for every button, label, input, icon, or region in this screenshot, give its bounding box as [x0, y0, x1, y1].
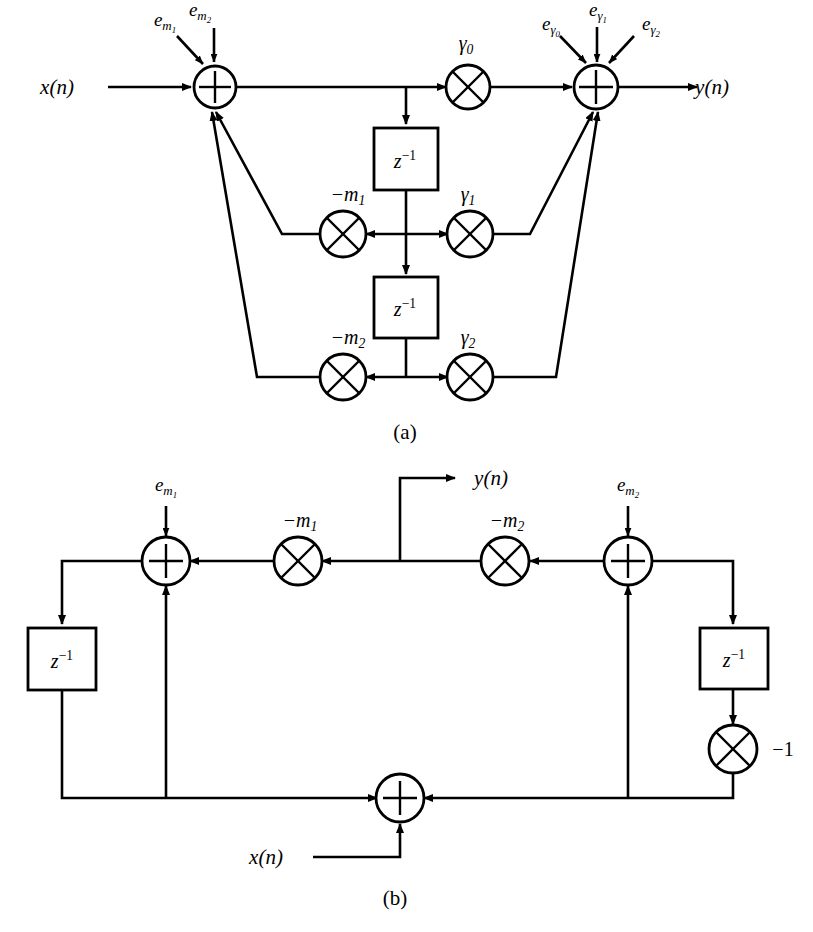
- label-minus-m1-b: −m1: [283, 510, 318, 533]
- label-minus-m2-a-sub: 2: [359, 336, 366, 351]
- label-gamma2-base: γ: [461, 326, 469, 348]
- label-delay-left-b: z−1: [51, 649, 73, 670]
- label-delay-1-a-base: z: [394, 150, 402, 172]
- label-minus-m2-b: −m2: [490, 510, 525, 533]
- wire-gamma1-to-output-adder-a: [492, 112, 593, 234]
- panel-b-multipliers: [274, 537, 757, 773]
- label-e-m2-b-subsub: 2: [635, 489, 639, 499]
- label-e-m1-a-subsub: 1: [172, 24, 176, 34]
- label-minus-m1-b-sub: 1: [311, 519, 318, 534]
- label-e-gamma2-a-subsub: 2: [656, 28, 660, 38]
- caption-panel-b: (b): [383, 888, 408, 909]
- label-delay-right-b-exp: −1: [731, 647, 745, 662]
- label-gamma1-sub: 1: [469, 193, 476, 208]
- label-input-xn-b: x(n): [249, 847, 283, 868]
- label-output-yn-a: y(n): [695, 77, 729, 98]
- wire-leftadder-to-delayleft-b: [62, 561, 143, 624]
- caption-panel-a: (a): [393, 422, 416, 443]
- label-e-m2-a-sub: m: [197, 8, 206, 23]
- label-input-xn-a: x(n): [40, 77, 74, 98]
- label-minus-m1-a: −m1: [331, 184, 366, 207]
- label-gamma0: γ0: [459, 33, 474, 56]
- wire-minusm1-feedback-a: [216, 112, 320, 234]
- arrow-e-m1-a: [177, 36, 203, 64]
- diagram-vector-layer: [0, 0, 813, 932]
- label-e-m1-a-sub: m: [162, 18, 171, 33]
- label-gamma2: γ2: [461, 327, 476, 350]
- wire-rightadder-to-delayright-b: [651, 561, 733, 624]
- label-delay-1-a: z−1: [394, 149, 416, 170]
- wire-gamma2-to-output-adder-a: [492, 112, 598, 377]
- wire-minusm2-feedback-a: [212, 112, 320, 377]
- label-e-gamma0-a: eγ0: [542, 14, 560, 38]
- arrow-e-gamma0-a: [560, 36, 586, 63]
- label-e-m1-b: em1: [155, 475, 177, 499]
- label-minus-one-b: −1: [772, 739, 793, 759]
- label-delay-right-b-base: z: [723, 649, 731, 671]
- wire-delayleft-to-bottomadder-b: [62, 690, 377, 798]
- panel-b-delay-blocks: [28, 628, 768, 690]
- label-e-m1-b-subsub: 1: [173, 489, 177, 499]
- label-e-m2-a-subsub: 2: [207, 14, 211, 24]
- label-minus-m1-a-base: −m: [331, 183, 359, 205]
- label-e-m2-b: em2: [617, 475, 639, 499]
- label-minus-m2-b-sub: 2: [518, 519, 525, 534]
- label-delay-left-b-exp: −1: [59, 648, 73, 663]
- label-e-m2-b-sub: m: [625, 483, 634, 498]
- label-minus-m1-b-base: −m: [283, 509, 311, 531]
- label-e-m1-b-sub: m: [163, 483, 172, 498]
- label-gamma1-base: γ: [461, 183, 469, 205]
- label-gamma0-sub: 0: [467, 42, 474, 57]
- label-e-gamma1-a-subsub: 1: [603, 14, 607, 24]
- label-delay-left-b-base: z: [51, 650, 59, 672]
- label-minus-m2-b-base: −m: [490, 509, 518, 531]
- wire-y-output-b: [400, 478, 455, 561]
- label-minus-m1-a-sub: 1: [359, 193, 366, 208]
- label-e-m2-a: em2: [189, 0, 211, 24]
- label-e-m1-a: em1: [154, 10, 176, 34]
- arrow-e-gamma2-a: [609, 36, 634, 63]
- label-minus-m2-a-base: −m: [331, 326, 359, 348]
- label-gamma2-sub: 2: [469, 336, 476, 351]
- label-e-gamma1-a: eγ1: [589, 0, 607, 24]
- label-delay-2-a-exp: −1: [402, 296, 416, 311]
- label-delay-1-a-exp: −1: [402, 148, 416, 163]
- label-gamma1: γ1: [461, 184, 476, 207]
- label-delay-2-a: z−1: [394, 297, 416, 318]
- label-minus-m2-a: −m2: [331, 327, 366, 350]
- wire-x-input-b: [313, 824, 400, 857]
- wire-minusone-to-bottomadder-b: [424, 773, 733, 798]
- label-e-gamma2-a: eγ2: [642, 14, 660, 38]
- figure-root: x(n) y(n) em1 em2 eγ0 eγ1 eγ2 γ0 γ1 γ2 −…: [0, 0, 813, 932]
- label-delay-right-b: z−1: [723, 648, 745, 669]
- label-output-yn-b: y(n): [474, 468, 508, 489]
- label-e-gamma0-a-subsub: 0: [556, 28, 560, 38]
- panel-b-adders: [142, 537, 652, 822]
- label-gamma0-base: γ: [459, 32, 467, 54]
- label-delay-2-a-base: z: [394, 298, 402, 320]
